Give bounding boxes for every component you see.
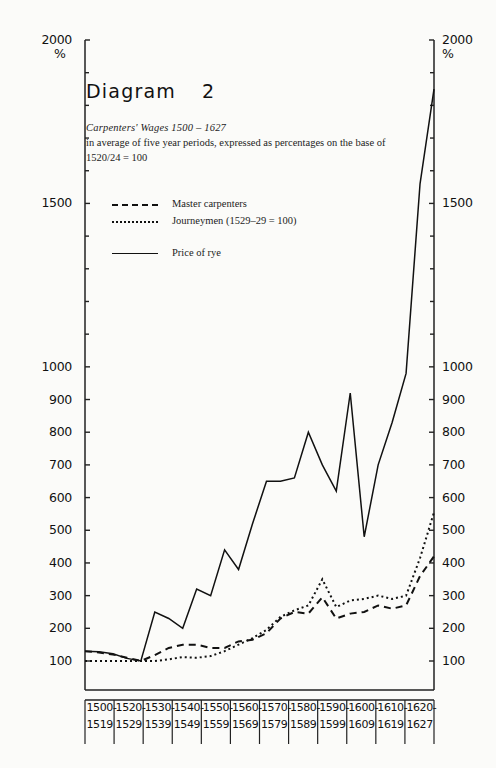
x-axis-cell-end: 1599 — [319, 719, 345, 732]
series-line-solid — [85, 89, 434, 661]
x-axis-cell-start: 1540- — [174, 702, 204, 715]
x-axis-cell-start: 1600- — [348, 702, 378, 715]
x-axis-cell-start: 1590- — [319, 702, 349, 715]
x-axis-cell-end: 1539 — [145, 719, 171, 732]
x-axis-cell-start: 1550- — [203, 702, 233, 715]
x-axis-cell-end: 1579 — [261, 719, 287, 732]
y-axis-label-left: 400 — [10, 555, 72, 570]
y-axis-label-left: 800 — [10, 424, 72, 439]
y-axis-label-left: 300 — [10, 588, 72, 603]
y-axis-label-left: 700 — [10, 457, 72, 472]
x-axis-cell-end: 1569 — [232, 719, 258, 732]
y-axis-label-left: 1000 — [10, 359, 72, 374]
x-axis-cell-end: 1627 — [406, 719, 432, 732]
y-axis-label-right: 700 — [442, 457, 465, 472]
caption-line-1: Carpenters' Wages 1500 – 1627 — [86, 122, 406, 133]
x-axis-cell-end: 1549 — [174, 719, 200, 732]
y-axis-label-left: 100 — [10, 653, 72, 668]
legend-swatch-solid-icon — [112, 248, 158, 258]
legend-label: Master carpenters — [172, 198, 247, 209]
x-axis-cell-start: 1580- — [290, 702, 320, 715]
page-title-text: Diagram — [86, 80, 176, 102]
y-axis-label-right: 400 — [442, 555, 465, 570]
legend-swatch-dotted-icon — [112, 216, 158, 226]
x-axis-cell-end: 1519 — [87, 719, 113, 732]
legend-item: Price of rye — [112, 244, 297, 261]
caption-line-2: in average of five year periods, express… — [86, 136, 406, 150]
x-axis-cell-start: 1500- — [87, 702, 117, 715]
y-axis-label-left: 200 — [10, 620, 72, 635]
x-axis-cell-end: 1589 — [290, 719, 316, 732]
x-axis-cell-end: 1619 — [377, 719, 403, 732]
y-axis-label-right: 300 — [442, 588, 465, 603]
y-axis-label-left: 1500 — [10, 195, 72, 210]
x-axis-cell-start: 1570- — [261, 702, 291, 715]
series-layer — [85, 89, 434, 661]
page-title-number: 2 — [202, 80, 215, 102]
y-axis-label-left: 2000 — [10, 32, 72, 47]
y-axis-label-right: 2000 — [442, 32, 473, 47]
x-axis-cell-start: 1560- — [232, 702, 262, 715]
series-line-dashed — [85, 556, 434, 661]
y-axis-label-right: 600 — [442, 490, 465, 505]
series-line-dotted — [85, 512, 434, 661]
legend-item: Master carpenters — [112, 195, 297, 212]
y-axis-unit-left: % — [54, 46, 66, 61]
y-axis-label-right: 500 — [442, 522, 465, 537]
y-axis-label-left: 600 — [10, 490, 72, 505]
y-axis-label-right: 200 — [442, 620, 465, 635]
caption-line-3: 1520/24 = 100 — [86, 151, 406, 165]
y-axis-label-right: 800 — [442, 424, 465, 439]
legend-swatch-dashed-icon — [112, 199, 158, 209]
x-axis-cell-start: 1620- — [406, 702, 436, 715]
legend-item: Journeymen (1529–29 = 100) — [112, 212, 297, 229]
page-title: Diagram2 — [86, 80, 215, 102]
x-axis-cell-end: 1559 — [203, 719, 229, 732]
y-axis-label-right: 1000 — [442, 359, 473, 374]
x-axis-cell-start: 1520- — [116, 702, 146, 715]
y-axis-label-left: 500 — [10, 522, 72, 537]
x-axis-cell-start: 1610- — [377, 702, 407, 715]
y-axis-label-right: 900 — [442, 392, 465, 407]
y-axis-label-right: 1500 — [442, 195, 473, 210]
chart-legend: Master carpentersJourneymen (1529–29 = 1… — [112, 195, 297, 261]
x-axis-cell-start: 1530- — [145, 702, 175, 715]
diagram-page: 1001002002003003004004005005006006007007… — [0, 0, 496, 768]
x-axis-cell-end: 1529 — [116, 719, 142, 732]
legend-label: Price of rye — [172, 247, 221, 258]
chart-caption: Carpenters' Wages 1500 – 1627 in average… — [86, 122, 406, 165]
y-axis-unit-right: % — [442, 46, 454, 61]
y-axis-label-left: 900 — [10, 392, 72, 407]
x-axis-cell-end: 1609 — [348, 719, 374, 732]
y-axis-label-right: 100 — [442, 653, 465, 668]
chart-canvas — [0, 0, 496, 768]
legend-label: Journeymen (1529–29 = 100) — [172, 215, 297, 226]
